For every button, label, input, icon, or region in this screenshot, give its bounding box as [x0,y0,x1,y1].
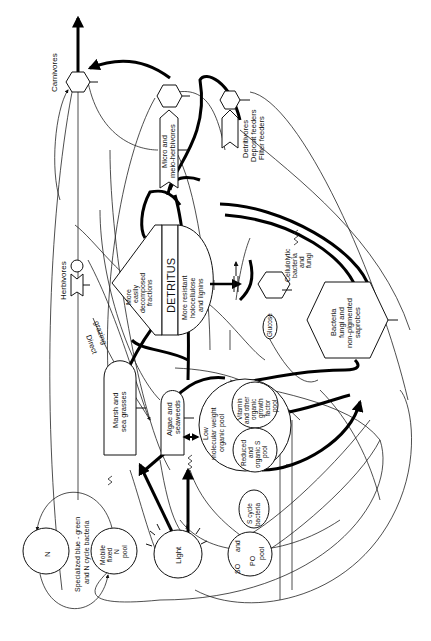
light-source-node: Light [146,522,207,578]
svg-text:More resistant: More resistant [181,276,188,320]
svg-text:SO: SO [234,563,241,574]
svg-text:fractions: fractions [146,279,153,306]
s-cycle-bacteria-node: S cycle bacteria [239,490,269,528]
marsh-sea-grasses-node: Marsh and sea grasses [104,361,158,455]
svg-text:holocellulose: holocellulose [189,277,196,318]
svg-text:Vitamin: Vitamin [236,398,243,420]
svg-text:Specialized blue - green: Specialized blue - green [74,517,82,592]
svg-text:Low: Low [202,426,209,440]
svg-text:sea grasses: sea grasses [119,391,128,432]
herbivores-label: Herbivores [59,261,68,300]
svg-text:N: N [43,551,52,557]
ecosystem-energy-flow-diagram: Carnivores Micro and meio-herbivores Det… [0,0,431,641]
svg-text:factor: factor [264,399,271,416]
svg-text:PO: PO [249,555,256,566]
svg-text:fixed: fixed [106,547,113,562]
svg-text:bacteria: bacteria [254,502,261,526]
micro-meio-label-2: meio-herbivores [168,124,177,178]
svg-text:fungi: fungi [305,252,313,268]
svg-text:More: More [125,289,132,305]
direct-grazing-label: Direct grazing [84,320,109,356]
svg-text:organic pool: organic pool [218,413,226,452]
svg-text:S cycle: S cycle [246,503,254,524]
detritus-title: DETRITUS [165,258,177,313]
herbivores-node: Herbivores [59,260,102,300]
svg-text:and other: and other [243,396,250,424]
detritivores-label-3: Filter feeders [257,116,266,160]
svg-text:and: and [234,540,241,552]
svg-text:N: N [113,549,120,554]
vitamin-growth-factor-pool: Vitamin and other organic growth factor … [232,382,279,428]
svg-text:Mobile: Mobile [99,545,106,565]
svg-text:and N cycle bacteria: and N cycle bacteria [83,520,91,584]
svg-text:molecular weight: molecular weight [210,407,218,460]
svg-text:Reduced: Reduced [240,440,247,466]
svg-text:seaweeds: seaweeds [173,400,182,434]
svg-text:saprobes: saprobes [353,307,362,338]
carnivores-label: Carnivores [50,53,59,92]
svg-text:and: and [247,447,254,458]
svg-text:bacteria: bacteria [291,253,298,278]
svg-text:Light: Light [174,546,183,564]
svg-text:pool: pool [121,545,129,558]
svg-text:Direct: Direct [84,334,99,356]
svg-text:and lignins: and lignins [197,278,205,312]
carnivores-node: Carnivores [50,53,102,92]
glucose-node: Glucose [263,313,277,339]
svg-text:pool: pool [271,399,279,412]
so4-po4-pool: SO and PO pool [228,532,272,576]
svg-text:pool: pool [261,445,269,458]
svg-text:Glucose: Glucose [266,313,273,337]
cellulolytic-bacteria-node: Cellulolytic bacteria and fungi [258,248,313,298]
svg-text:pool: pool [258,546,266,560]
detritus-node: More easily decomposed fractions DETRITU… [112,225,240,335]
mobile-fixed-n-pool: Mobile fixed N pool [91,528,137,574]
svg-text:and: and [298,256,305,268]
detritivores-node: Detritivores Deposit feeders Filter feed… [220,91,266,162]
